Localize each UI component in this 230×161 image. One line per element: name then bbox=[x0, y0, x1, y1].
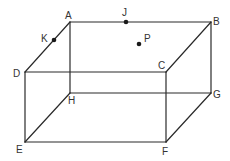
point-K bbox=[52, 38, 57, 43]
label-H: H bbox=[68, 95, 75, 106]
label-E: E bbox=[16, 144, 23, 155]
label-G: G bbox=[213, 89, 221, 100]
edge-DA bbox=[25, 22, 70, 72]
edge-HE bbox=[25, 93, 70, 142]
point-J bbox=[124, 20, 129, 25]
label-C: C bbox=[158, 60, 165, 71]
label-F: F bbox=[162, 146, 168, 157]
label-K: K bbox=[41, 33, 48, 44]
label-A: A bbox=[65, 10, 72, 21]
point-P bbox=[137, 42, 142, 47]
label-J: J bbox=[122, 7, 127, 18]
label-P: P bbox=[144, 33, 151, 44]
label-D: D bbox=[13, 68, 20, 79]
edge-FG bbox=[166, 93, 211, 142]
edge-BC bbox=[166, 22, 211, 72]
label-B: B bbox=[213, 16, 220, 27]
cuboid-diagram: A B C D E F G H J K P bbox=[0, 0, 230, 161]
